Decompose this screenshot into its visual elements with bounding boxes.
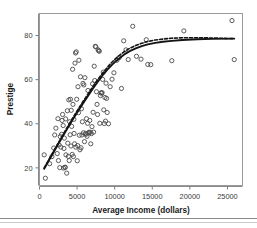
y-axis-tick-labels: 20406080 (24, 31, 32, 172)
x-tick-label: 25000 (217, 192, 238, 201)
y-tick-label: 80 (24, 31, 32, 40)
y-axis-ticks (36, 14, 39, 186)
y-tick-label: 40 (24, 119, 32, 128)
y-tick-label: 20 (24, 164, 32, 173)
figure-container: 0500010000150002000025000 20406080 Avera… (0, 0, 257, 228)
x-axis-tick-labels: 0500010000150002000025000 (37, 192, 237, 201)
page-separator-rule (0, 218, 257, 219)
y-axis-title: Prestige (6, 82, 15, 115)
x-tick-label: 15000 (142, 192, 163, 201)
y-tick-label: 60 (24, 75, 32, 84)
x-axis-ticks (40, 187, 243, 190)
page-separator-rule-secondary (0, 222, 257, 223)
x-tick-label: 5000 (69, 192, 85, 201)
scatter-plot-chart: 0500010000150002000025000 20406080 Avera… (0, 0, 257, 228)
x-tick-label: 0 (37, 192, 41, 201)
x-tick-label: 20000 (180, 192, 201, 201)
x-tick-label: 10000 (104, 192, 125, 201)
x-axis-title: Average Income (dollars) (92, 206, 190, 215)
